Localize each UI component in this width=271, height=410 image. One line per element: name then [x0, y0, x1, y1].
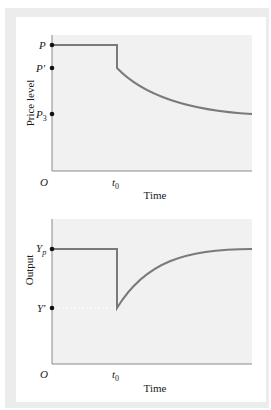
- p-point-dot: [50, 43, 55, 48]
- p3-label: P3: [35, 108, 47, 123]
- output-chart: Yp Y' Output O t0 Time: [23, 219, 252, 394]
- yp-label: Yp: [36, 242, 46, 257]
- output-x-axis-label: Time: [144, 382, 167, 394]
- output-y-axis-label: Output: [23, 255, 35, 286]
- y-prime-point-dot: [50, 306, 55, 311]
- price-t0-label: t0: [112, 176, 119, 191]
- output-t0-label: t0: [112, 368, 119, 383]
- price-y-axis-label: Price level: [24, 80, 36, 127]
- figure-svg: P P' P3 Price level O t0 Time Yp Y' Outp…: [0, 0, 271, 410]
- output-plot-area: [52, 219, 252, 364]
- price-level-chart: P P' P3 Price level O t0 Time: [24, 35, 252, 201]
- p-label: P: [38, 39, 46, 51]
- yp-point-dot: [50, 247, 55, 252]
- p3-point-dot: [50, 112, 55, 117]
- price-x-axis-label: Time: [144, 189, 167, 201]
- output-origin-label: O: [40, 368, 48, 380]
- price-plot-area: [52, 35, 252, 171]
- price-origin-label: O: [40, 176, 48, 188]
- p-prime-point-dot: [50, 66, 55, 71]
- y-prime-label: Y': [37, 302, 46, 314]
- p-prime-label: P': [35, 62, 46, 74]
